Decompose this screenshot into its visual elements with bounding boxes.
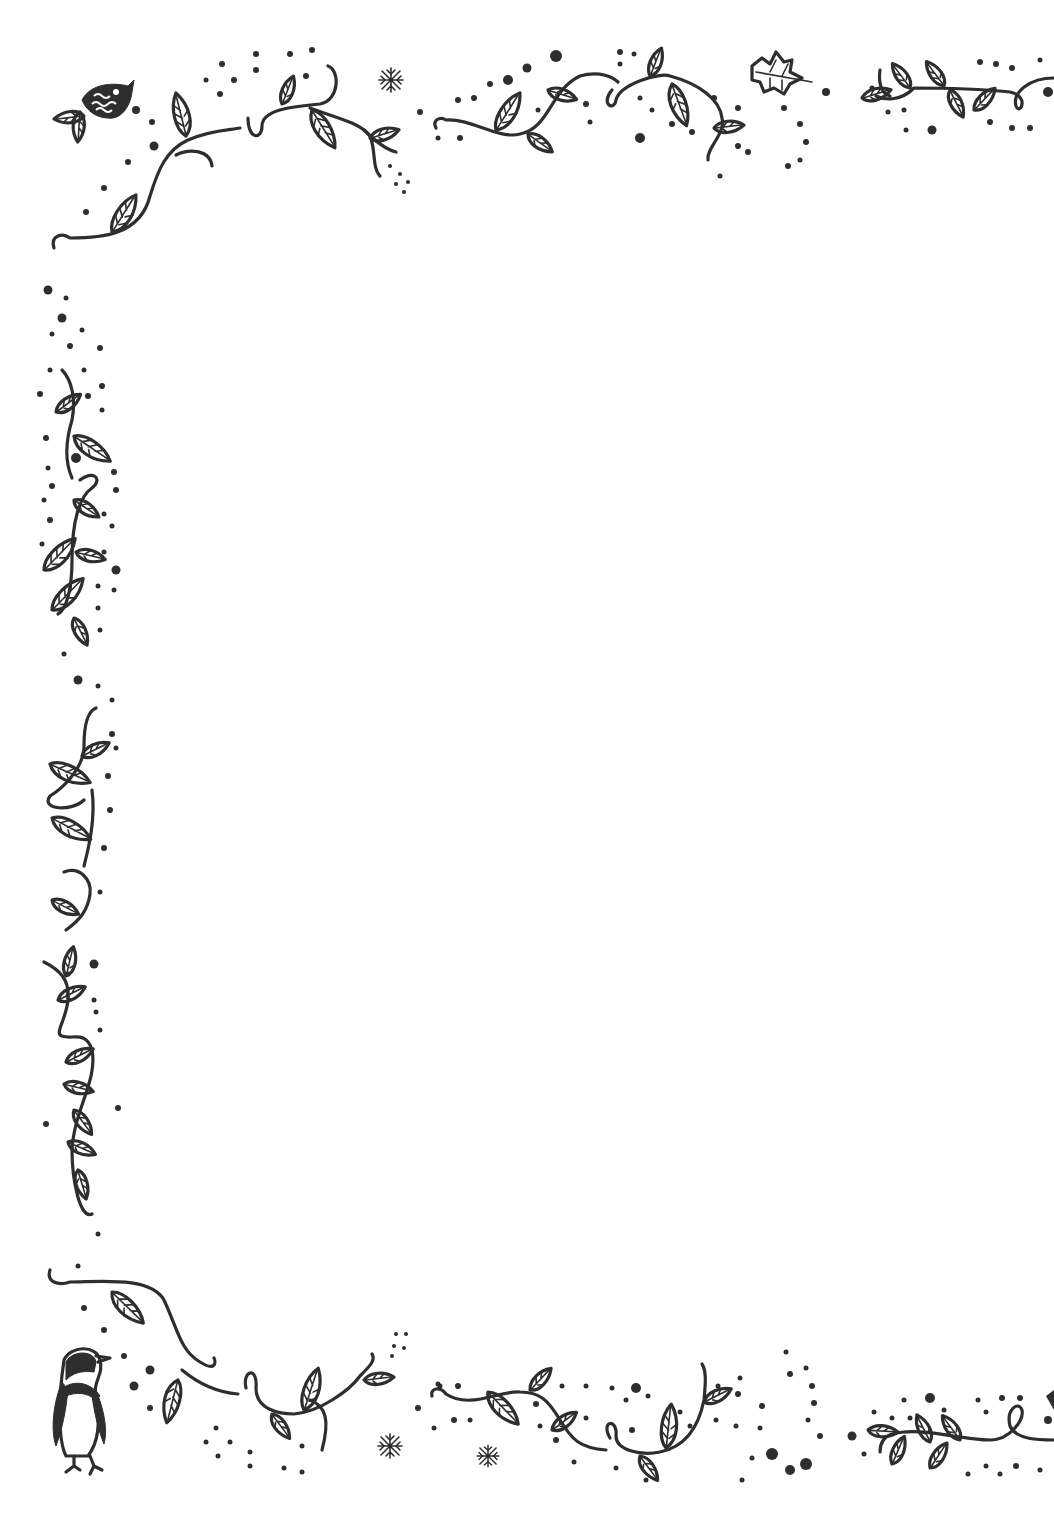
blank-writing-area (140, 260, 1020, 1270)
dots-cluster (83, 47, 423, 215)
maple-leaf-icon (752, 52, 812, 94)
fish-icon (54, 80, 134, 143)
vine-icon (44, 945, 97, 1214)
snowflake-icon (477, 1445, 499, 1467)
dots-cluster (436, 49, 831, 179)
snowflake-icon (379, 68, 403, 92)
dots-cluster (432, 1350, 824, 1483)
vine-icon (867, 1406, 1054, 1471)
penguin-icon (53, 1349, 110, 1474)
vine-icon (47, 708, 112, 930)
right-edge-shadow (1046, 1390, 1054, 1410)
snowflake-icon (378, 1434, 402, 1458)
vine-icon (435, 46, 744, 160)
